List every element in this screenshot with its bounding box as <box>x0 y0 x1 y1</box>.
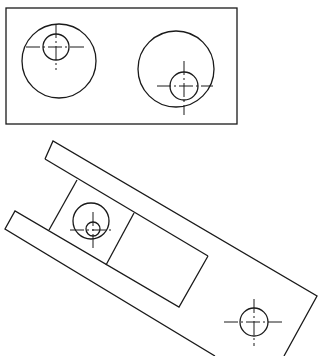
technical-drawing <box>0 0 324 356</box>
top-view <box>6 8 237 124</box>
block-divider <box>106 213 134 265</box>
block-large-circle <box>73 203 109 239</box>
top-view-frame <box>6 8 237 124</box>
upper-arm-inner-edge <box>45 159 208 256</box>
upper-arm-outline <box>45 141 317 356</box>
left-large-circle <box>22 24 96 98</box>
rotated-view <box>5 141 317 356</box>
lower-arm-outline <box>5 211 215 356</box>
right-large-circle <box>138 31 214 107</box>
